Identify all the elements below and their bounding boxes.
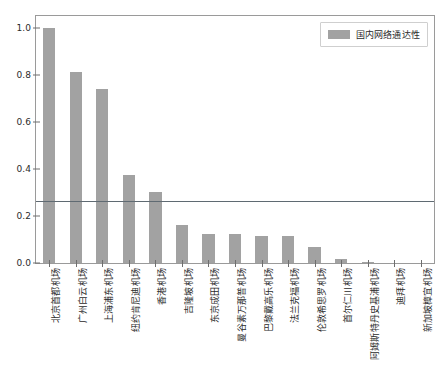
x-axis-tick-label: 阿姆斯特丹史基浦机场 <box>371 268 380 360</box>
x-axis-tick-mark-inner <box>341 260 342 264</box>
x-axis-tick-mark <box>368 263 369 267</box>
y-axis-tick-label: 0.0 <box>16 258 31 268</box>
y-axis-tick-mark-inner <box>36 168 40 169</box>
x-axis-tick-mark <box>49 263 50 267</box>
x-axis-tick-mark <box>341 263 342 267</box>
x-axis-tick-label: 纽约肯尼迪机场 <box>132 268 141 332</box>
x-axis-tick-label: 北京首都机场 <box>52 268 61 323</box>
y-axis-tick-label: 1.0 <box>16 23 31 33</box>
x-axis-tick-label: 迪拜机场 <box>397 268 406 305</box>
bar <box>43 28 55 263</box>
x-axis-tick-label: 新加坡樟宜机场 <box>424 268 433 332</box>
x-axis-tick-mark-inner <box>49 260 50 264</box>
x-axis-tick-mark-inner <box>394 260 395 264</box>
x-axis-tick-mark-inner <box>288 260 289 264</box>
x-axis-tick-label: 法兰克福机场 <box>291 268 300 323</box>
bar <box>176 225 188 263</box>
plot-area <box>36 16 434 263</box>
x-axis-tick-label: 广州白云机场 <box>79 268 88 323</box>
x-axis-tick-label: 吉隆坡机场 <box>185 268 194 314</box>
x-axis-tick-mark <box>421 263 422 267</box>
y-axis-tick-mark-inner <box>36 27 40 28</box>
x-axis-tick-label: 曼谷素万那普机场 <box>238 268 247 342</box>
x-axis-tick-mark <box>315 263 316 267</box>
x-axis-tick-mark <box>102 263 103 267</box>
x-axis-tick-mark-inner <box>129 260 130 264</box>
x-axis-tick-mark-inner <box>102 260 103 264</box>
x-axis-tick-mark-inner <box>182 260 183 264</box>
x-axis-tick-label: 首尔仁川机场 <box>344 268 353 323</box>
x-axis-tick-mark-inner <box>315 260 316 264</box>
x-axis-tick-mark <box>129 263 130 267</box>
x-axis-tick-mark-inner <box>208 260 209 264</box>
y-axis-tick-mark-inner <box>36 263 40 264</box>
y-axis-tick-mark-inner <box>36 215 40 216</box>
x-axis-tick-mark <box>262 263 263 267</box>
x-axis-tick-mark-inner <box>76 260 77 264</box>
bar <box>123 175 135 263</box>
x-axis-tick-mark <box>182 263 183 267</box>
x-axis-tick-mark-inner <box>235 260 236 264</box>
x-axis-tick-mark <box>235 263 236 267</box>
x-axis-tick-label: 香港机场 <box>158 268 167 305</box>
y-axis-tick-label: 0.8 <box>16 70 31 80</box>
x-axis-tick-mark-inner <box>421 260 422 264</box>
bar <box>149 192 161 263</box>
y-axis-tick-mark-inner <box>36 121 40 122</box>
x-axis-tick-label: 上海浦东机场 <box>105 268 114 323</box>
bar <box>96 89 108 263</box>
x-axis-tick-mark <box>76 263 77 267</box>
y-axis-tick-label: 0.2 <box>16 211 31 221</box>
chart-legend: 国内网络通达性 <box>320 22 428 47</box>
x-axis-tick-label: 伦敦希思罗机场 <box>318 268 327 332</box>
x-axis-tick-mark-inner <box>155 260 156 264</box>
y-axis-tick-label: 0.6 <box>16 117 31 127</box>
x-axis-tick-mark-inner <box>262 260 263 264</box>
x-axis-tick-label: 巴黎戴高乐机场 <box>265 268 274 332</box>
bar <box>70 72 82 263</box>
reference-threshold-line <box>36 201 434 202</box>
chart-figure: 国内网络通达性 0.00.20.40.60.81.0 北京首都机场广州白云机场上… <box>0 0 446 377</box>
y-axis-tick-mark-inner <box>36 74 40 75</box>
x-axis-tick-mark-inner <box>368 260 369 264</box>
legend-swatch-domestic-network <box>328 30 350 39</box>
x-axis-tick-label: 东京成田机场 <box>211 268 220 323</box>
x-axis-tick-mark <box>394 263 395 267</box>
plot-frame: 国内网络通达性 0.00.20.40.60.81.0 <box>35 15 435 264</box>
x-axis-tick-mark <box>288 263 289 267</box>
legend-label-domestic-network: 国内网络通达性 <box>356 28 420 41</box>
y-axis-tick-label: 0.4 <box>16 164 31 174</box>
x-axis-tick-mark <box>208 263 209 267</box>
x-axis-tick-mark <box>155 263 156 267</box>
